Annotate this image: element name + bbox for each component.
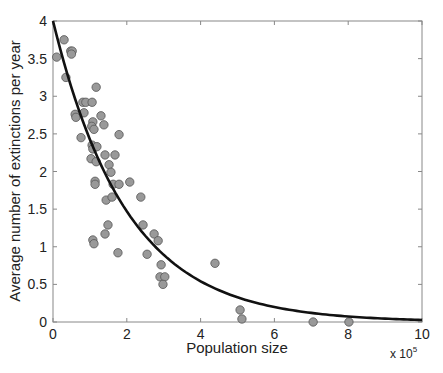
data-point [238,315,246,323]
data-point [107,168,115,176]
data-point [309,318,317,326]
data-point [67,50,75,58]
data-point [104,221,112,229]
data-point [115,180,123,188]
y-tick-label: 3.5 [28,51,48,67]
x-tick-label: 2 [123,326,131,342]
data-point [100,121,108,129]
y-axis-label: Average number of extinctions per year [6,40,23,302]
data-point [111,151,119,159]
data-point [72,113,80,121]
data-point [52,53,60,61]
x-multiplier-label: x 105 [390,345,418,361]
data-point [88,98,96,106]
x-tick-label: 8 [344,326,352,342]
data-point [154,237,162,245]
x-axis-label: Population size [186,339,288,356]
data-point [114,249,122,257]
data-point [159,280,167,288]
data-point [126,178,134,186]
data-point [236,306,244,314]
data-point [97,112,105,120]
data-point [157,261,165,269]
data-point [90,125,98,133]
data-point [92,83,100,91]
x-multiplier-exponent: 5 [413,345,418,354]
x-tick-label: 10 [414,326,430,342]
scatter-chart: 0246810 00.511.522.533.54 Population siz… [0,0,443,373]
x-tick-label: 0 [49,326,57,342]
data-point [90,240,98,248]
data-point [137,193,145,201]
data-point [105,161,113,169]
y-tick-label: 4 [39,13,47,29]
plot-area: 0246810 00.511.522.533.54 [28,13,430,342]
data-point [60,36,68,44]
y-tick-label: 2 [39,164,47,180]
data-point [77,133,85,141]
data-point [91,180,99,188]
data-point [101,151,109,159]
x-multiplier-base: x 10 [390,347,413,361]
data-point [161,273,169,281]
data-point [345,318,353,326]
data-point [115,130,123,138]
data-point [101,230,109,238]
y-tick-label: 2.5 [28,126,48,142]
y-tick-label: 1.5 [28,201,48,217]
y-tick-label: 1 [39,239,47,255]
y-tick-label: 3 [39,88,47,104]
data-point [211,259,219,267]
data-point [143,250,151,258]
y-tick-label: 0 [39,314,47,330]
y-tick-label: 0.5 [28,276,48,292]
